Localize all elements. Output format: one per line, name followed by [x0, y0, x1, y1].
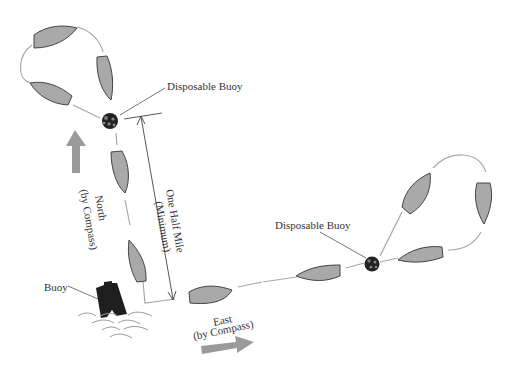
- boat-north-leg-upper: [111, 151, 128, 193]
- boat-loop-east-3: [398, 247, 443, 263]
- north-arrow-icon: [66, 130, 86, 173]
- maneuver-diagram: Disposable Buoy North (by Compass) One H…: [0, 0, 515, 369]
- disposable-buoy-label-2: Disposable Buoy: [275, 219, 351, 231]
- boat-east-leg-1: [189, 286, 232, 303]
- boat-loop-left: [30, 82, 72, 105]
- east-leg: [189, 263, 364, 303]
- disposable-buoy-2: [365, 257, 380, 272]
- boat-loop-east-1: [402, 173, 430, 214]
- north-loop: [20, 26, 175, 303]
- boat-east-leg-2: [296, 265, 340, 281]
- water-waves: [78, 312, 152, 338]
- disposable-buoy-1: [102, 113, 118, 129]
- boat-loop-right: [97, 56, 113, 100]
- east-loop: [380, 155, 492, 262]
- buoy-icon: [96, 281, 127, 318]
- boat-loop-east-2: [475, 183, 491, 224]
- disposable-buoy-label-1: Disposable Buoy: [167, 80, 243, 92]
- boat-loop-top: [34, 26, 77, 48]
- boat-north-leg-lower: [128, 240, 146, 282]
- buoy-label: Buoy: [44, 281, 68, 293]
